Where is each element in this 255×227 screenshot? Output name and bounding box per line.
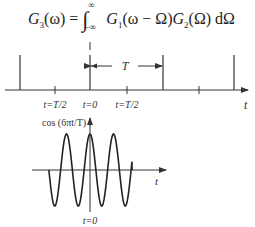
diagram-graphics: T t t=T/2 t=0 t=T/2 cos (6πt/T) t t=0	[0, 0, 255, 227]
cosine-function-label: cos (6πt/T)	[42, 117, 86, 129]
cosine-axis-label-t: t	[155, 175, 159, 187]
tick-label-pos-half: t=T/2	[116, 99, 139, 110]
period-label: T	[122, 59, 130, 73]
impulse-train-plot: T t t=T/2 t=0 t=T/2	[5, 42, 248, 112]
cosine-origin-label: t=0	[83, 215, 98, 226]
convolution-diagram: G3(ω) = ∫ ∞ −∞ G1(ω − Ω)G2(Ω) dΩ T	[0, 0, 255, 227]
cosine-plot: cos (6πt/T) t t=0	[32, 117, 166, 226]
tick-label-neg-half: t=T/2	[44, 99, 67, 110]
tick-label-zero: t=0	[83, 99, 98, 110]
axis-label-t: t	[244, 98, 248, 112]
